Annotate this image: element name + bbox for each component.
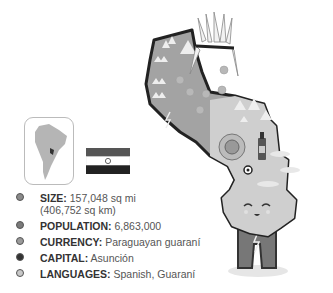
bullet-icon — [16, 269, 24, 277]
bullet-icon — [16, 221, 24, 229]
paraguay-character-icon — [140, 0, 333, 293]
locator-map — [24, 117, 74, 185]
bullet-icon — [16, 253, 24, 261]
paraguay-flag-icon — [86, 148, 130, 174]
bullet-icon — [16, 237, 24, 245]
bullet-icon — [16, 193, 24, 201]
south-america-map-icon — [25, 118, 73, 184]
paraguay-illustration — [140, 0, 333, 293]
